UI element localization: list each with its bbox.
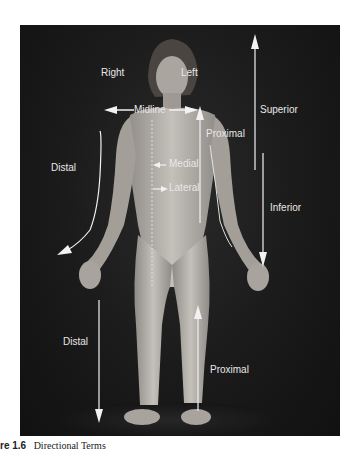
caption-number: re 1.6 bbox=[0, 440, 26, 451]
inferior-arrow-icon bbox=[259, 153, 267, 267]
label-right: Right bbox=[101, 67, 124, 78]
label-medial: Medial bbox=[169, 158, 198, 169]
label-distal-arm: Distal bbox=[51, 162, 76, 173]
anatomy-photo-panel: Right Left Midline Proximal Superior Dis… bbox=[20, 25, 340, 436]
label-superior: Superior bbox=[260, 104, 298, 115]
distal-leg-arrow-icon bbox=[95, 300, 103, 423]
label-distal-leg: Distal bbox=[63, 336, 88, 347]
right-arrow-icon bbox=[104, 106, 134, 114]
label-proximal-leg: Proximal bbox=[210, 364, 249, 375]
label-proximal-arm: Proximal bbox=[206, 128, 245, 139]
superior-arrow-icon bbox=[251, 34, 259, 170]
label-left: Left bbox=[181, 67, 198, 78]
figure-caption: re 1.6 Directional Terms bbox=[0, 440, 106, 451]
distal-arm-arrow-icon bbox=[57, 131, 101, 255]
label-midline: Midline bbox=[134, 104, 166, 115]
label-lateral: Lateral bbox=[169, 182, 200, 193]
caption-title: Directional Terms bbox=[34, 440, 106, 451]
human-figure-illustration bbox=[20, 25, 340, 436]
label-inferior: Inferior bbox=[270, 202, 301, 213]
